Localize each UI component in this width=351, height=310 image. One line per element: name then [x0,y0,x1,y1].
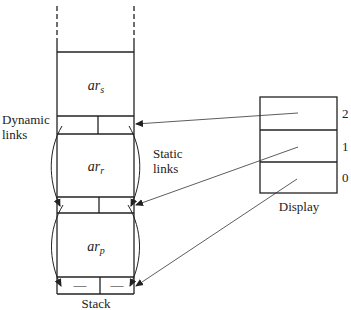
dynamic-links-label-line1: Dynamic [2,112,50,127]
display-index-0: 0 [342,170,349,185]
display-pointer-0-to-p [136,179,297,286]
bottom-link-mark-left: — [73,277,88,292]
display [260,97,337,193]
diagram-svg: — — ars arr arp Dynamic links Static lin… [0,0,351,310]
bottom-link-mark-right: — [110,277,125,292]
stack-label: Stack [82,296,111,310]
activation-record-diagram: — — ars arr arp Dynamic links Static lin… [0,0,351,310]
record-label-p: arp [87,239,104,256]
record-label-s: ars [88,78,104,95]
display-index-1: 1 [342,139,349,154]
static-links-label-line1: Static [153,146,183,161]
bottom-link-marks: — — [73,277,125,292]
dynamic-links-label-line2: links [2,127,27,142]
display-index-2: 2 [342,106,349,121]
display-pointer-arrows [136,113,298,286]
display-label: Display [279,199,320,214]
static-links-label-line2: links [153,161,178,176]
display-pointer-2-to-s [136,113,298,124]
record-label-r: arr [88,159,104,176]
